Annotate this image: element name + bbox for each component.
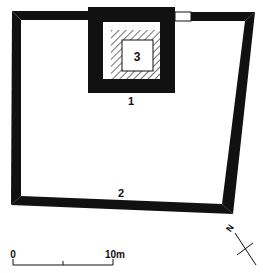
label-tower: 1: [128, 95, 134, 107]
site-plan: 3 1 2 0 10m N: [0, 0, 263, 273]
scale-end-label: 10m: [105, 249, 125, 260]
enclosure-top-wall-left: [12, 11, 92, 20]
enclosure-left-wall: [11, 11, 21, 205]
scale-bar: 0 10m: [10, 249, 125, 265]
doorway: [175, 12, 191, 21]
north-arrow-icon: N: [224, 222, 256, 265]
scale-start-label: 0: [10, 249, 16, 260]
tower: [88, 7, 175, 93]
label-enclosure: 2: [118, 187, 124, 199]
label-inner-room: 3: [134, 50, 141, 64]
north-label: N: [224, 222, 236, 233]
enclosure-right-wall: [222, 12, 255, 214]
enclosure-top-wall-right: [191, 12, 255, 21]
